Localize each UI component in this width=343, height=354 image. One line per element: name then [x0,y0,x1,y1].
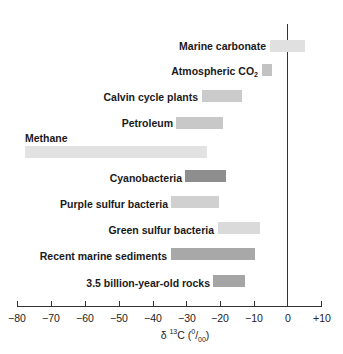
axis-title-close: ) [206,329,210,341]
x-tick-label: −10 [239,312,269,324]
x-tick [85,301,86,307]
bar-atmospheric-co2 [262,64,272,76]
x-tick [51,301,52,307]
bar-green-sulfur-bacteria [218,222,260,234]
x-tick-label: −60 [70,312,100,324]
bar-recent-marine-sediments [171,248,255,260]
bar-ancient-rocks [213,275,245,287]
label-ancient-rocks: 3.5 billion-year-old rocks [86,277,210,289]
label-methane: Methane [25,132,68,144]
x-tick [153,301,154,307]
isotope-range-chart: Marine carbonate Atmospheric CO2 Calvin … [0,0,343,354]
x-axis-title: δ 13C (0/00) [140,328,230,343]
x-tick [321,301,322,307]
bar-cyanobacteria [185,170,226,182]
bar-methane [25,146,207,158]
axis-title-permil-den: 00 [198,336,206,343]
x-tick [254,301,255,307]
label-green-sulfur-bacteria: Green sulfur bacteria [108,224,214,236]
x-tick [17,301,18,307]
x-tick-label: +10 [307,312,337,324]
x-tick-label: −70 [36,312,66,324]
zero-reference-line [287,24,288,307]
x-tick-label: −80 [2,312,32,324]
bar-petroleum [176,117,223,129]
x-tick-label: −30 [172,312,202,324]
label-petroleum: Petroleum [122,117,173,129]
label-marine-carbonate: Marine carbonate [179,40,266,52]
label-calvin-cycle-plants: Calvin cycle plants [103,91,198,103]
x-tick [186,301,187,307]
bar-calvin-cycle-plants [202,90,242,102]
label-atmospheric-co2: Atmospheric CO2 [171,65,258,77]
label-recent-marine-sediments: Recent marine sediments [40,250,167,262]
label-atmospheric-co2-subscript: 2 [254,71,258,78]
bar-marine-carbonate [270,40,305,52]
x-tick [220,301,221,307]
x-tick-label: 0 [273,312,303,324]
label-cyanobacteria: Cyanobacteria [110,172,182,184]
label-purple-sulfur-bacteria: Purple sulfur bacteria [60,198,168,210]
label-atmospheric-co2-text: Atmospheric CO [171,65,254,77]
x-axis-line [17,306,322,307]
x-tick-label: −40 [138,312,168,324]
x-tick-label: −50 [104,312,134,324]
x-tick [119,301,120,307]
x-tick-label: −20 [205,312,235,324]
bar-purple-sulfur-bacteria [171,196,219,208]
axis-title-carbon: C ( [177,329,191,341]
